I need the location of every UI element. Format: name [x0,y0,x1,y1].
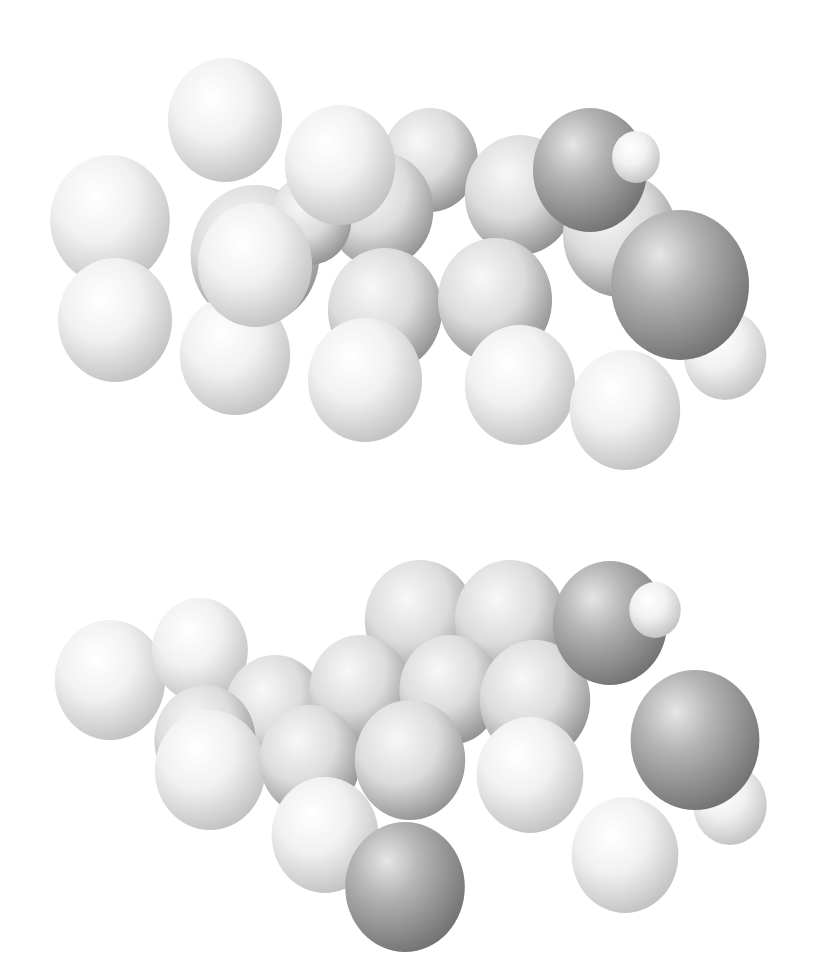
oxygen-atom [611,210,749,360]
oxygen-atom [631,670,760,810]
hydrogen-atom [198,203,312,327]
hydrogen-atom [465,325,575,445]
molecule-view-bottom [55,560,767,952]
hydrogen-atom [612,131,660,183]
carbon-atom [355,700,465,820]
molecule-figure [0,0,817,956]
oxygen-atom [345,822,465,952]
hydrogen-atom [570,350,680,470]
hydrogen-atom [155,710,265,830]
molecule-view-top [50,58,766,470]
hydrogen-atom [477,717,584,833]
hydrogen-atom [629,582,681,638]
hydrogen-atom [572,797,679,913]
hydrogen-atom [285,105,395,225]
hydrogen-atom [55,620,165,740]
hydrogen-atom [58,258,172,382]
hydrogen-atom [308,318,422,442]
molecule-canvas [0,0,817,956]
hydrogen-atom [168,58,282,182]
